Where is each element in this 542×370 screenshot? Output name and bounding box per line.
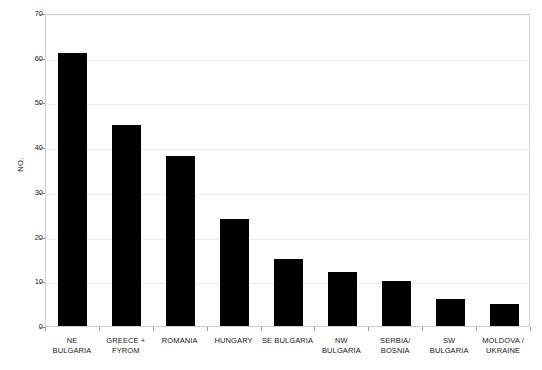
bar[interactable] bbox=[166, 156, 195, 326]
x-tick-mark bbox=[422, 327, 423, 331]
x-tick-mark bbox=[45, 327, 46, 331]
bar[interactable] bbox=[436, 299, 465, 326]
x-tick-label: SE BULGARIA bbox=[261, 336, 315, 346]
x-tick-label: ROMANIA bbox=[153, 336, 207, 346]
x-tick-mark bbox=[530, 327, 531, 331]
x-tick-mark bbox=[261, 327, 262, 331]
x-tick-mark bbox=[476, 327, 477, 331]
bar[interactable] bbox=[490, 304, 519, 326]
x-tick-label-line: UKRAINE bbox=[476, 346, 530, 356]
x-tick-label-line: SE BULGARIA bbox=[261, 336, 315, 346]
x-tick-label-line: HUNGARY bbox=[207, 336, 261, 346]
x-tick-label-line: ROMANIA bbox=[153, 336, 207, 346]
bar[interactable] bbox=[382, 281, 411, 326]
bars-layer bbox=[46, 15, 529, 326]
bar-slot[interactable] bbox=[154, 15, 208, 326]
x-tick-label: NEBULGARIA bbox=[45, 336, 99, 355]
x-tick-label: SWBULGARIA bbox=[422, 336, 476, 355]
bar[interactable] bbox=[328, 272, 357, 326]
x-tick-label-line: BOSNIA bbox=[368, 346, 422, 356]
x-tick-label-line: SW bbox=[422, 336, 476, 346]
x-tick-mark bbox=[99, 327, 100, 331]
x-tick-mark bbox=[153, 327, 154, 331]
x-tick-label-line: NW bbox=[314, 336, 368, 346]
x-tick-label-line: SERBIA/ bbox=[368, 336, 422, 346]
x-tick-label: MOLDOVA /UKRAINE bbox=[476, 336, 530, 355]
x-tick-label-line: NE bbox=[45, 336, 99, 346]
x-tick-label-line: GREECE + bbox=[99, 336, 153, 346]
x-tick-label-line: MOLDOVA / bbox=[476, 336, 530, 346]
bar[interactable] bbox=[220, 219, 249, 326]
x-tick-label: NWBULGARIA bbox=[314, 336, 368, 355]
x-tick-label: SERBIA/BOSNIA bbox=[368, 336, 422, 355]
bar-slot[interactable] bbox=[262, 15, 316, 326]
bar-slot[interactable] bbox=[477, 15, 531, 326]
bar[interactable] bbox=[274, 259, 303, 326]
bar[interactable] bbox=[58, 53, 87, 326]
x-tick-label-line: FYROM bbox=[99, 346, 153, 356]
bar-slot[interactable] bbox=[46, 15, 100, 326]
x-tick-mark bbox=[314, 327, 315, 331]
x-tick-label-line: BULGARIA bbox=[314, 346, 368, 356]
bar-slot[interactable] bbox=[315, 15, 369, 326]
x-tick-mark bbox=[368, 327, 369, 331]
bar[interactable] bbox=[112, 125, 141, 326]
bar-chart: NO. 706050403020100 NEBULGARIAGREECE +FY… bbox=[0, 0, 542, 370]
x-tick-label-line: BULGARIA bbox=[45, 346, 99, 356]
x-tick-mark bbox=[207, 327, 208, 331]
bar-slot[interactable] bbox=[369, 15, 423, 326]
plot-area bbox=[45, 14, 530, 327]
x-tick-label-line: BULGARIA bbox=[422, 346, 476, 356]
bar-slot[interactable] bbox=[423, 15, 477, 326]
x-tick-label: GREECE +FYROM bbox=[99, 336, 153, 355]
bar-slot[interactable] bbox=[208, 15, 262, 326]
bar-slot[interactable] bbox=[100, 15, 154, 326]
x-tick-label: HUNGARY bbox=[207, 336, 261, 346]
